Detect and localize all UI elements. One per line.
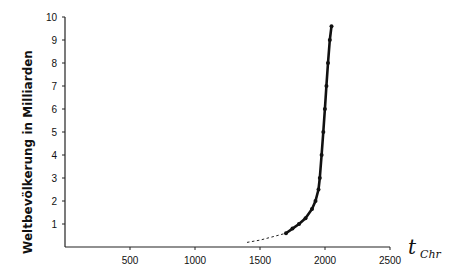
data-point-marker bbox=[284, 231, 288, 235]
y-axis-ticks: 12345678910 bbox=[46, 12, 65, 230]
x-axis-label-subscript: Chr bbox=[420, 248, 442, 261]
data-point-marker bbox=[304, 216, 308, 220]
data-point-marker bbox=[314, 199, 318, 203]
x-tick-label: 2000 bbox=[314, 255, 337, 266]
y-tick-label: 2 bbox=[51, 196, 57, 207]
data-point-marker bbox=[326, 61, 330, 65]
y-tick-label: 9 bbox=[51, 35, 57, 46]
x-tick-label: 500 bbox=[122, 255, 139, 266]
series-layer bbox=[247, 24, 334, 242]
x-tick-label: 1500 bbox=[249, 255, 272, 266]
data-point-marker bbox=[328, 38, 332, 42]
y-tick-label: 10 bbox=[46, 12, 58, 23]
dashed-estimate-line bbox=[247, 233, 286, 242]
x-axis-label: t bbox=[408, 235, 417, 259]
data-point-marker bbox=[297, 222, 301, 226]
population-line bbox=[286, 26, 332, 233]
y-axis-label: Weltbevölkerung in Milliarden bbox=[21, 50, 35, 254]
y-tick-label: 5 bbox=[51, 127, 57, 138]
y-tick-label: 8 bbox=[51, 58, 57, 69]
data-point-marker bbox=[323, 107, 327, 111]
y-axis-label-group: Weltbevölkerung in Milliarden bbox=[21, 50, 35, 254]
x-tick-label: 1000 bbox=[184, 255, 207, 266]
y-tick-label: 1 bbox=[51, 219, 57, 230]
data-point-marker bbox=[291, 227, 295, 231]
data-point-marker bbox=[321, 130, 325, 134]
y-tick-label: 4 bbox=[51, 150, 57, 161]
population-chart: Weltbevölkerung in Milliarden 1234567891… bbox=[0, 0, 453, 275]
data-point-marker bbox=[320, 153, 324, 157]
x-tick-label: 2500 bbox=[379, 255, 402, 266]
data-point-marker bbox=[330, 24, 334, 28]
data-point-marker bbox=[324, 84, 328, 88]
data-point-marker bbox=[318, 176, 322, 180]
x-axis-ticks: 5001000150020002500 bbox=[122, 247, 402, 266]
data-point-marker bbox=[310, 207, 314, 211]
data-point-marker bbox=[317, 188, 321, 192]
y-tick-label: 7 bbox=[51, 81, 57, 92]
y-tick-label: 6 bbox=[51, 104, 57, 115]
y-tick-label: 3 bbox=[51, 173, 57, 184]
